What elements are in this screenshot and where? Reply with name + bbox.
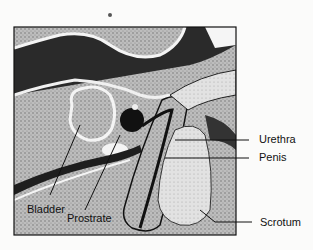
label-scrotum: Scrotum [260,216,301,228]
label-urethra: Urethra [259,133,296,145]
prostate-shape [120,108,144,132]
label-penis: Penis [259,151,287,163]
label-prostrate: Prostrate [67,212,112,224]
label-bladder: Bladder [27,203,65,215]
